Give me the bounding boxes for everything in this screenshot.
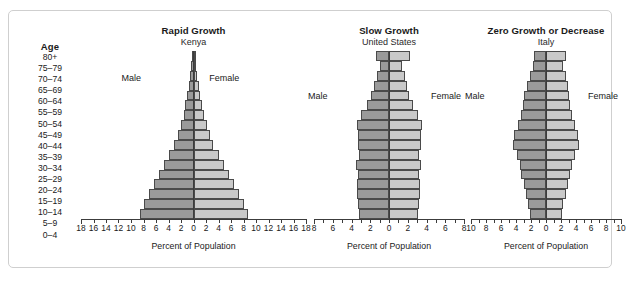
axis-tick-label: 8: [141, 223, 146, 233]
bar-female: [546, 130, 578, 140]
age-group-label: 30–34: [21, 163, 79, 174]
center-axis-line: [546, 51, 547, 219]
axis-tick-label: 6: [330, 223, 335, 233]
axis-tick-label: 10: [466, 223, 475, 233]
population-pyramid-figure: Age 80+75–7970–7465–6960–6455–5950–5445–…: [8, 10, 612, 268]
bar-female: [389, 140, 421, 150]
axis-tick-label: 10: [126, 223, 135, 233]
bar-male: [359, 150, 389, 160]
bar-female: [389, 81, 407, 91]
panel-title-united-states: Slow Growth: [314, 25, 464, 37]
bar-male: [357, 179, 389, 189]
bar-female: [194, 160, 225, 170]
age-group-label: 75–79: [21, 63, 79, 74]
age-group-label: 5–9: [21, 218, 79, 229]
age-group-label: 50–54: [21, 119, 79, 130]
age-group-label: 70–74: [21, 74, 79, 85]
bar-male: [530, 71, 547, 81]
bar-female: [546, 110, 572, 120]
bar-male: [358, 170, 389, 180]
chart-panel-united-states: Slow Growth United States Male Female 86…: [314, 25, 464, 261]
bar-female: [546, 51, 566, 61]
axis-tick-label: 4: [574, 223, 579, 233]
axis-tick-label: 4: [514, 223, 519, 233]
bar-female: [389, 110, 418, 120]
axis-tick-label: 18: [301, 223, 310, 233]
plot-area-italy: Male Female: [471, 51, 621, 219]
age-group-label: 40–44: [21, 141, 79, 152]
bar-male: [356, 160, 389, 170]
bar-male: [144, 199, 194, 209]
bar-female: [389, 100, 413, 110]
age-column-header: Age: [21, 41, 79, 52]
axis-tick-label: 4: [216, 223, 221, 233]
bar-male: [518, 120, 546, 130]
bar-female: [389, 150, 419, 160]
bar-female: [194, 130, 210, 140]
bar-female: [546, 140, 579, 150]
age-group-label: 20–24: [21, 185, 79, 196]
axis-tick-label: 18: [76, 223, 85, 233]
bar-male: [374, 81, 389, 91]
bar-male: [514, 130, 546, 140]
bar-female: [389, 179, 420, 189]
bar-male: [376, 51, 389, 61]
bar-male: [520, 160, 546, 170]
axis-tick-label: 2: [179, 223, 184, 233]
axis-tick-label: 6: [499, 223, 504, 233]
bar-female: [194, 100, 203, 110]
bar-female: [389, 51, 410, 61]
axis-tick-label: 16: [289, 223, 298, 233]
axis-tick-label: 6: [443, 223, 448, 233]
bar-female: [389, 61, 402, 71]
bar-female: [194, 120, 207, 130]
age-group-label: 35–39: [21, 152, 79, 163]
bar-male: [181, 120, 194, 130]
bar-male: [521, 170, 546, 180]
bar-male: [527, 81, 547, 91]
bar-male: [533, 61, 546, 71]
age-group-label: 80+: [21, 52, 79, 63]
age-group-label: 65–69: [21, 85, 79, 96]
axis-tick-label: 6: [154, 223, 159, 233]
female-label-italy: Female: [588, 91, 618, 101]
bar-male: [358, 140, 389, 150]
bar-male: [513, 140, 546, 150]
bar-female: [546, 179, 568, 189]
age-group-label: 55–59: [21, 107, 79, 118]
axis-tick-label: 12: [114, 223, 123, 233]
axis-tick-label: 0: [191, 223, 196, 233]
panel-title-italy: Zero Growth or Decrease: [471, 25, 621, 37]
axis-tick-label: 16: [89, 223, 98, 233]
axis-tick-label: 2: [405, 223, 410, 233]
male-label-united-states: Male: [308, 91, 328, 101]
axis-caption-kenya: Percent of Population: [81, 241, 306, 251]
male-label-kenya: Male: [122, 73, 142, 83]
bar-female: [546, 81, 568, 91]
bar-female: [546, 100, 570, 110]
bar-male: [169, 150, 193, 160]
bar-female: [389, 130, 421, 140]
axis-tick-label: 8: [484, 223, 489, 233]
age-group-label: 15–19: [21, 196, 79, 207]
bar-female: [546, 160, 572, 170]
bar-female: [546, 71, 566, 81]
plot-area-united-states: Male Female: [314, 51, 464, 219]
bar-female: [194, 81, 199, 91]
bar-female: [389, 160, 421, 170]
bar-male: [361, 110, 389, 120]
bar-female: [194, 140, 214, 150]
center-axis-line: [389, 51, 390, 219]
axis-tick-label: 4: [424, 223, 429, 233]
bar-male: [178, 130, 194, 140]
bar-male: [358, 199, 389, 209]
chart-panel-kenya: Rapid Growth Kenya Male Female 181614121…: [81, 25, 306, 261]
x-axis-united-states: 864202468 Percent of Population: [314, 219, 464, 235]
bar-female: [194, 71, 198, 81]
bar-female: [546, 189, 566, 199]
bar-female: [389, 120, 422, 130]
bar-female: [546, 150, 575, 160]
male-label-italy: Male: [465, 91, 485, 101]
age-group-label: 25–29: [21, 174, 79, 185]
bar-male: [159, 170, 194, 180]
